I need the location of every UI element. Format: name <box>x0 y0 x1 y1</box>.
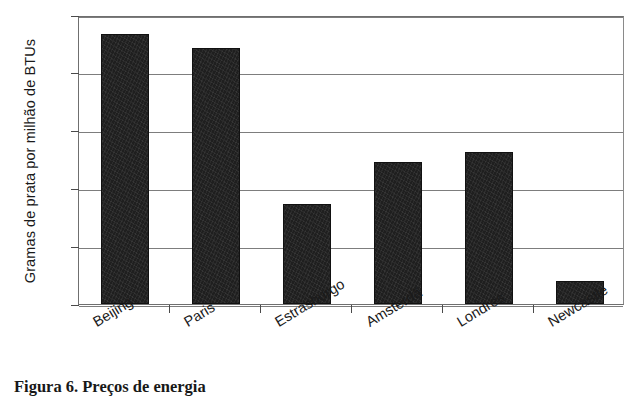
bar-londres <box>465 152 513 304</box>
y-tick-mark-2 <box>71 247 79 248</box>
bar-paris <box>192 48 240 304</box>
gridline-4 <box>79 190 623 191</box>
figure-caption: Figura 6. Preços de energia <box>14 377 206 397</box>
x-tick-mark <box>351 305 352 313</box>
gridline-8 <box>79 74 623 75</box>
plot-area <box>78 16 624 305</box>
y-axis-title: Gramas de prata por milhão de BTUs <box>22 1 38 321</box>
x-tick-mark <box>442 305 443 313</box>
y-tick-mark-0 <box>71 305 79 306</box>
x-tick-mark <box>169 305 170 313</box>
y-tick-mark-4 <box>71 189 79 190</box>
y-tick-mark-6 <box>71 131 79 132</box>
x-tick-mark <box>533 305 534 313</box>
bar-beijing <box>101 34 149 304</box>
gridline-6 <box>79 132 623 133</box>
y-tick-mark-8 <box>71 73 79 74</box>
gridline-2 <box>79 248 623 249</box>
gridline-10 <box>79 17 623 18</box>
x-tick-mark <box>260 305 261 313</box>
bar-amsterdã <box>374 162 422 304</box>
y-tick-mark-10 <box>71 16 79 17</box>
